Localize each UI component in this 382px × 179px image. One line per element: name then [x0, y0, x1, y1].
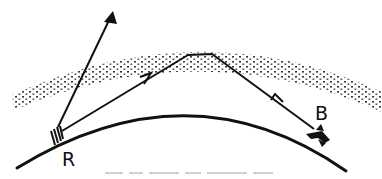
- antenna-icon: [51, 126, 63, 145]
- diagram-canvas: [0, 0, 382, 179]
- transmitter-label: B: [315, 104, 328, 123]
- receiver-label: R: [62, 150, 75, 169]
- arrowhead-icon: [104, 11, 117, 24]
- aircraft-icon: [306, 124, 330, 147]
